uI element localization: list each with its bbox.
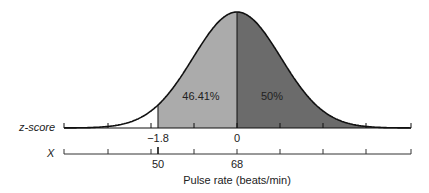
left-percent-label: 46.41% — [182, 90, 219, 102]
left-shaded-area — [158, 12, 237, 128]
x-axis-title: Pulse rate (beats/min) — [183, 174, 291, 186]
x-cut-label: 50 — [152, 158, 164, 170]
right-percent-label: 50% — [261, 90, 283, 102]
z-mean-label: 0 — [234, 132, 240, 144]
x-axis-label: X — [47, 147, 54, 159]
x-mean-label: 68 — [231, 158, 243, 170]
z-axis-label: z-score — [19, 121, 55, 133]
z-cut-label: −1.8 — [147, 132, 169, 144]
right-shaded-area — [237, 12, 411, 128]
x-axis-ticks — [64, 149, 411, 154]
